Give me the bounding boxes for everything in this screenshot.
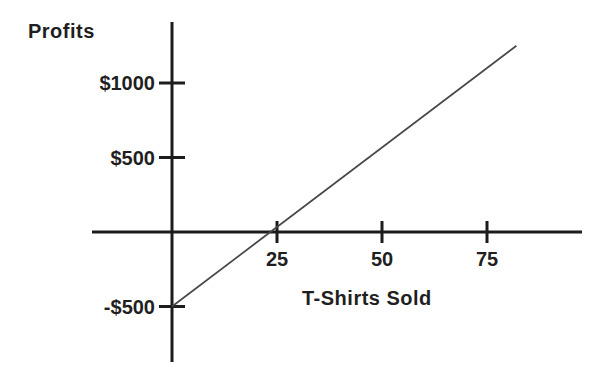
y-tick-label: $1000: [99, 72, 155, 94]
x-tick-label: 75: [476, 248, 498, 270]
y-axis-title: Profits: [28, 20, 95, 43]
series-profit-line: [172, 46, 516, 307]
x-axis-title: T-Shirts Sold: [302, 287, 432, 310]
x-tick-label: 25: [266, 248, 288, 270]
y-tick-label: $500: [111, 147, 156, 169]
y-tick-label: -$500: [104, 296, 155, 318]
profit-chart: $1000$500-$500255075 Profits T-Shirts So…: [0, 0, 600, 372]
chart-canvas: $1000$500-$500255075: [0, 0, 600, 372]
x-tick-label: 50: [371, 248, 393, 270]
